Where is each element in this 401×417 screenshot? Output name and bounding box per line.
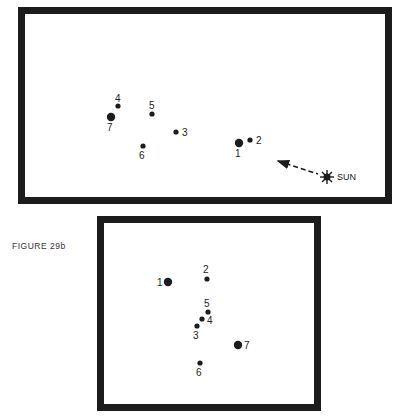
- bottom-point-3: [194, 323, 199, 328]
- bottom-point-label: 2: [203, 265, 209, 275]
- top-point-7: [107, 113, 115, 121]
- sun-icon: [320, 170, 334, 184]
- top-point-6: [140, 143, 145, 148]
- top-point-label: 5: [149, 101, 155, 111]
- bottom-point-label: 1: [157, 278, 163, 288]
- bottom-point-5: [205, 309, 210, 314]
- bottom-point-2: [204, 276, 209, 281]
- bottom-points-group: [164, 276, 242, 365]
- bottom-point-label: 7: [244, 341, 250, 351]
- bottom-point-label: 5: [204, 299, 210, 309]
- top-point-label: 2: [256, 136, 262, 146]
- top-point-1: [235, 139, 243, 147]
- bottom-point-label: 6: [196, 368, 202, 378]
- bottom-point-6: [197, 360, 202, 365]
- top-points-group: [107, 103, 253, 148]
- top-point-2: [247, 137, 252, 142]
- bottom-point-4: [199, 316, 204, 321]
- top-point-label: 6: [139, 151, 145, 161]
- bottom-point-label: 3: [193, 331, 199, 341]
- top-point-label: 3: [182, 128, 188, 138]
- bottom-point-1: [164, 278, 172, 286]
- top-point-label: 7: [107, 123, 113, 133]
- top-point-label: 4: [115, 94, 121, 104]
- sun-label: SUN: [337, 172, 356, 182]
- bottom-point-label: 4: [207, 316, 213, 326]
- bottom-point-7: [234, 341, 242, 349]
- top-point-label: 1: [235, 149, 241, 159]
- top-point-5: [149, 111, 154, 116]
- top-point-3: [173, 129, 178, 134]
- sunlight-arrow: [278, 161, 318, 174]
- top-point-4: [115, 103, 120, 108]
- diagram-overlay: [0, 0, 401, 417]
